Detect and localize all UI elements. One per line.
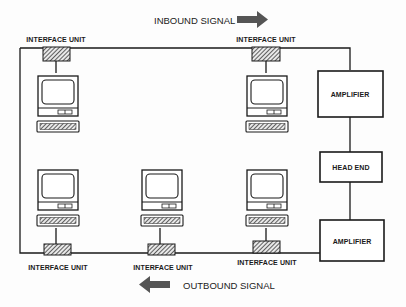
interface-unit-label: INTERFACE UNIT (26, 36, 86, 43)
inbound-signal: INBOUND SIGNAL (154, 11, 268, 28)
interface-unit-label: INTERFACE UNIT (236, 36, 296, 43)
amplifier-bottom: AMPLIFIER (320, 220, 384, 261)
computer-bottom-right (246, 170, 288, 226)
outbound-signal-label: OUTBOUND SIGNAL (183, 280, 275, 291)
arrow-right-icon (237, 11, 268, 28)
interface-unit-label: INTERFACE UNIT (237, 259, 297, 266)
network-diagram: INTERFACE UNIT INTERFACE UNIT INTERFACE … (0, 0, 406, 307)
inbound-signal-label: INBOUND SIGNAL (154, 15, 235, 26)
computer-top-right (246, 76, 288, 132)
amplifier-top: AMPLIFIER (318, 71, 383, 117)
computer-top-left (37, 76, 79, 132)
computer-bottom-left (37, 170, 79, 226)
interface-unit-label: INTERFACE UNIT (133, 264, 193, 271)
interface-unit-bottom-middle: INTERFACE UNIT (133, 244, 193, 271)
computer-bottom-middle (141, 170, 183, 226)
outbound-signal: OUTBOUND SIGNAL (139, 276, 275, 293)
interface-unit-bottom-left: INTERFACE UNIT (28, 244, 88, 271)
head-end-label: HEAD END (332, 164, 369, 171)
arrow-left-icon (139, 276, 170, 293)
head-end: HEAD END (320, 152, 382, 182)
amplifier-top-label: AMPLIFIER (331, 91, 370, 98)
interface-unit-label: INTERFACE UNIT (28, 264, 88, 271)
amplifier-bottom-label: AMPLIFIER (333, 238, 372, 245)
